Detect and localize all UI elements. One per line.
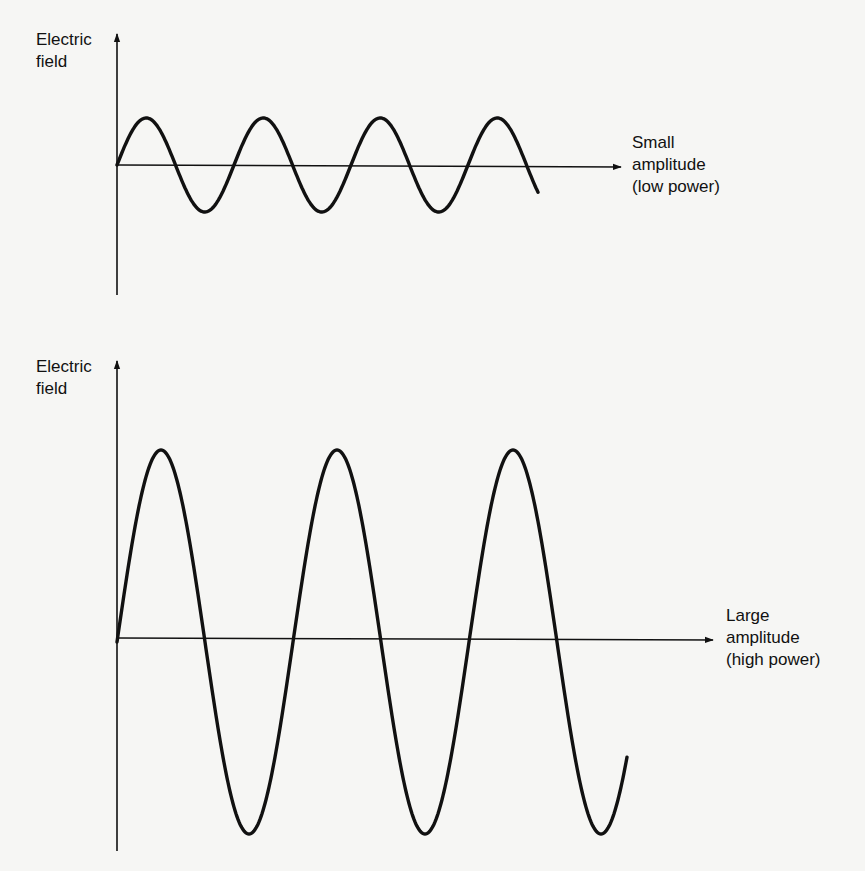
electric-field-diagram	[0, 0, 865, 871]
top-y-axis-label: Electric field	[36, 29, 92, 73]
bottom-wave-large-amplitude	[117, 450, 627, 834]
bottom-x-axis	[117, 638, 713, 640]
wave-label-line-1: Large	[726, 605, 821, 627]
top-panel	[117, 34, 621, 295]
wave-label-line-2: amplitude	[726, 627, 821, 649]
wave-label-line-1: Small	[632, 132, 720, 154]
y-label-line-2: field	[36, 51, 92, 73]
top-x-axis	[117, 165, 621, 167]
wave-label-line-3: (low power)	[632, 176, 720, 198]
wave-label-line-3: (high power)	[726, 649, 821, 671]
y-label-line-2: field	[36, 378, 92, 400]
y-label-line-1: Electric	[36, 29, 92, 51]
y-label-line-1: Electric	[36, 356, 92, 378]
wave-label-line-2: amplitude	[632, 154, 720, 176]
bottom-panel	[117, 361, 713, 851]
bottom-wave-label: Large amplitude (high power)	[726, 605, 821, 671]
top-wave-label: Small amplitude (low power)	[632, 132, 720, 198]
bottom-y-axis-label: Electric field	[36, 356, 92, 400]
